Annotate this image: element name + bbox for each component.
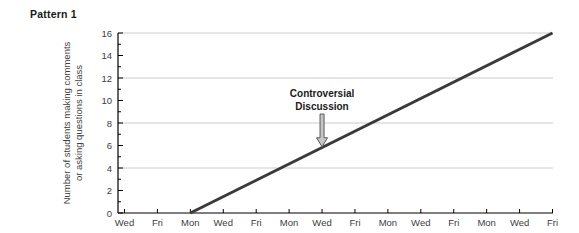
y-tick-label: 16 <box>101 28 112 39</box>
x-tick-label: Mon <box>280 217 298 228</box>
x-tick-label: Mon <box>181 217 199 228</box>
y-axis-title-line: or asking questions in class <box>73 65 84 181</box>
x-tick-label: Wed <box>510 217 529 228</box>
chart: 0246810121416WedFriMonWedFriMonWedFriMon… <box>0 0 579 233</box>
x-tick-label: Fri <box>547 217 558 228</box>
y-tick-label: 8 <box>107 118 112 129</box>
x-tick-label: Mon <box>477 217 495 228</box>
annotation-label-line: Discussion <box>295 101 348 112</box>
y-tick-label: 12 <box>101 73 112 84</box>
x-tick-label: Wed <box>411 217 430 228</box>
y-tick-label: 2 <box>107 185 112 196</box>
x-tick-label: Wed <box>214 217 233 228</box>
x-tick-label: Wed <box>115 217 134 228</box>
y-axis-title-line: Number of students making comments <box>61 41 72 204</box>
y-tick-label: 4 <box>107 163 112 174</box>
annotation-arrow-icon <box>317 114 328 147</box>
y-tick-label: 6 <box>107 140 112 151</box>
y-tick-label: 14 <box>101 50 112 61</box>
x-tick-label: Fri <box>448 217 459 228</box>
x-tick-label: Fri <box>349 217 360 228</box>
x-tick-label: Fri <box>251 217 262 228</box>
annotation-label-line: Controversial <box>290 88 355 99</box>
y-tick-label: 10 <box>101 95 112 106</box>
y-tick-label: 0 <box>107 208 112 219</box>
x-tick-label: Mon <box>379 217 397 228</box>
x-tick-label: Fri <box>152 217 163 228</box>
x-tick-label: Wed <box>312 217 331 228</box>
figure: Pattern 1 0246810121416WedFriMonWedFriMo… <box>0 0 579 233</box>
